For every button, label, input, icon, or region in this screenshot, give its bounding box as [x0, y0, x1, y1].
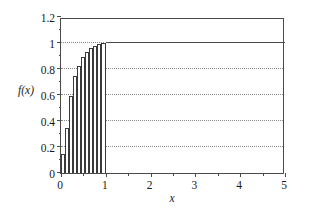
- y-tick-label: 1.2: [41, 12, 55, 24]
- y-tick: [57, 146, 61, 147]
- y-tick-minor: [59, 55, 62, 56]
- y-tick: [57, 42, 61, 43]
- x-tick-label: 0: [57, 179, 63, 191]
- y-tick-minor: [59, 107, 62, 108]
- x-tick-label: 4: [236, 179, 242, 191]
- y-tick-label: 0.4: [41, 116, 55, 128]
- figure: f(x) 00.20.40.60.811.2 012345 x: [0, 0, 311, 217]
- x-tick: [285, 173, 286, 177]
- y-tick-label: 0.6: [41, 90, 55, 102]
- y-tick-minor: [59, 81, 62, 82]
- x-tick-label: 3: [192, 179, 198, 191]
- y-tick-label: 0.8: [41, 64, 55, 76]
- plot-area: [60, 18, 284, 174]
- y-tick-label: 0: [49, 168, 55, 180]
- y-axis-tick-labels: 00.20.40.60.811.2: [22, 18, 55, 174]
- y-tick: [57, 16, 61, 17]
- x-tick-label: 1: [102, 179, 108, 191]
- gridline-y: [61, 42, 104, 43]
- y-tick-minor: [59, 133, 62, 134]
- y-tick-label: 0.2: [41, 142, 55, 154]
- x-axis-tick-labels: 012345: [60, 175, 284, 193]
- x-axis-title: x: [60, 192, 284, 204]
- y-tick: [57, 68, 61, 69]
- bar: [101, 43, 105, 173]
- tail-line: [106, 42, 285, 43]
- x-tick-label: 2: [147, 179, 153, 191]
- y-tick-minor: [59, 29, 62, 30]
- y-tick: [57, 120, 61, 121]
- x-tick-label: 5: [281, 179, 287, 191]
- y-tick: [57, 94, 61, 95]
- y-tick-label: 1: [49, 38, 55, 50]
- y-tick-minor: [59, 159, 62, 160]
